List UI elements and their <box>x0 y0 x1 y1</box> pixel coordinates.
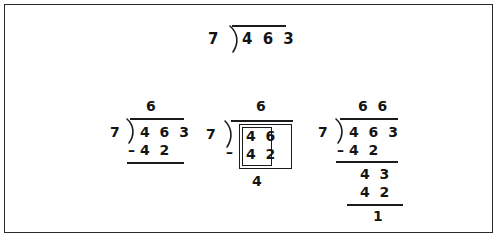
step-3-dividend: 4 6 3 <box>349 124 400 140</box>
step-3-subtrahend-2: 4 2 <box>360 184 392 200</box>
top-divisor: 7 <box>208 30 221 48</box>
step-1-quotient: 6 <box>146 98 158 114</box>
step-3-rule-2 <box>347 204 403 206</box>
step-3-bring-down: 4 3 <box>360 166 392 182</box>
step-1-dividend: 4 6 3 <box>140 124 191 140</box>
step-3-divisor: 7 <box>318 124 330 140</box>
step-2-difference: 4 <box>252 173 264 189</box>
step-1-division-bracket-icon <box>125 118 139 144</box>
step-3-quotient: 6 6 <box>358 98 390 114</box>
step-3-subtrahend-1: 4 2 <box>349 142 381 158</box>
step-2-panel: 6 7 – 4 6 4 2 4 <box>206 98 316 190</box>
step-3-remainder: 1 <box>373 208 385 224</box>
step-2-boxed-top: 4 6 <box>246 128 278 144</box>
step-3-rule-1 <box>336 161 398 163</box>
step-1-subtrahend: 4 2 <box>140 142 172 158</box>
step-2-divisor: 7 <box>206 126 218 142</box>
step-1-panel: 6 7 4 6 3 – 4 2 <box>110 98 210 178</box>
step-3-panel: 6 6 7 4 6 3 – 4 2 4 3 4 2 1 <box>318 98 428 218</box>
step-3-vinculum <box>340 118 398 120</box>
step-3-minus-sign: – <box>337 142 344 158</box>
step-2-boxed-bottom: 4 2 <box>246 146 278 162</box>
step-2-vinculum <box>231 120 293 122</box>
step-1-divisor: 7 <box>110 124 122 140</box>
figure-canvas: 7 4 6 3 6 7 4 6 3 – 4 2 6 7 <box>0 0 501 240</box>
step-2-minus-sign: – <box>226 144 233 160</box>
top-problem: 7 4 6 3 <box>206 20 296 56</box>
step-1-minus-sign: – <box>128 142 135 158</box>
top-dividend: 4 6 3 <box>242 30 296 48</box>
step-3-division-bracket-icon <box>334 118 348 144</box>
step-2-quotient: 6 <box>256 98 268 114</box>
top-vinculum <box>232 25 286 27</box>
step-1-subtraction-rule <box>127 162 184 164</box>
